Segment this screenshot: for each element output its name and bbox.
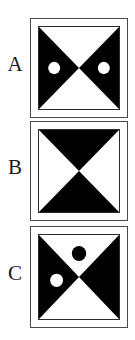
panel-frame-b[interactable] — [30, 121, 128, 221]
panel-label-c: C — [2, 263, 28, 284]
panel-label-b: B — [2, 157, 28, 178]
panel-label-a: A — [2, 54, 28, 75]
bottom-black-dot — [72, 188, 86, 203]
panel-graphic-a — [39, 27, 119, 109]
panel-row-b: B — [0, 121, 135, 221]
panel-inner-a — [38, 26, 120, 110]
panel-frame-c[interactable] — [30, 226, 128, 328]
top-black-dot — [72, 139, 86, 154]
left-white-dot — [48, 62, 60, 74]
panel-graphic-b — [39, 130, 119, 212]
figure-root: A B — [0, 0, 135, 340]
panel-graphic-c — [39, 235, 119, 319]
panel-row-c: C — [0, 226, 135, 328]
left-white-dot — [50, 274, 63, 287]
top-black-dot — [72, 246, 86, 261]
right-white-dot — [98, 62, 110, 74]
panel-frame-a[interactable] — [30, 18, 128, 118]
panel-inner-b — [38, 129, 120, 213]
panel-row-a: A — [0, 18, 135, 118]
panel-inner-c — [38, 234, 120, 320]
